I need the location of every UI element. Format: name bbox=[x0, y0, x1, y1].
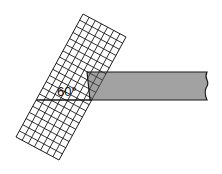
diagram-canvas: 60° bbox=[0, 0, 222, 174]
angle-label: 60° bbox=[57, 84, 77, 99]
